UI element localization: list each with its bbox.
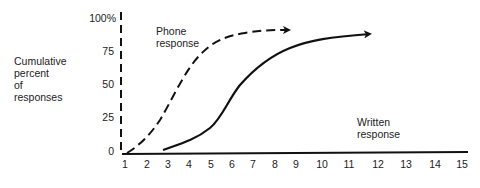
x-axis [122, 152, 468, 154]
chart-plot [0, 0, 480, 188]
written-response-line [163, 34, 370, 150]
phone-response-line [127, 30, 289, 153]
